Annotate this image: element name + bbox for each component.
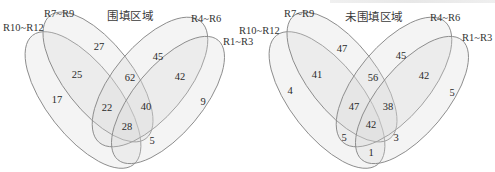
region-value: 42	[419, 71, 430, 82]
region-value: 3	[393, 133, 398, 144]
region-value: 22	[102, 103, 113, 114]
set-label-r4-r6: R4~R6	[191, 14, 221, 25]
venn-diagram-reclaimed: R10~R12 R7~R9 围填区域 R4~R6 R1~R3 27 25 17 …	[0, 0, 248, 172]
region-value: 56	[368, 73, 379, 84]
region-value: 5	[341, 133, 346, 144]
region-value: 17	[52, 95, 63, 106]
region-value: 5	[149, 136, 154, 147]
region-value: 42	[175, 72, 186, 83]
region-value: 27	[94, 42, 105, 53]
set-label-r4-r6: R4~R6	[430, 13, 460, 24]
region-value: 38	[383, 102, 394, 113]
region-value: 47	[349, 102, 360, 113]
region-value: 25	[72, 70, 83, 81]
set-label-r7-r9: R7~R9	[284, 9, 314, 20]
region-value: 42	[366, 120, 377, 131]
region-value: 5	[449, 88, 454, 99]
region-value: 45	[396, 51, 407, 62]
region-value: 62	[125, 73, 136, 84]
region-value: 45	[153, 52, 164, 63]
region-value: 1	[368, 148, 373, 159]
region-value: 47	[337, 44, 348, 55]
region-value: 40	[141, 102, 152, 113]
set-label-r10-r12: R10~R12	[239, 26, 280, 37]
venn-title: 未围填区域	[345, 12, 403, 24]
venn-diagram-unreclaimed: R10~R12 R7~R9 未围填区域 R4~R6 R1~R3 47 41 4 …	[247, 0, 495, 172]
region-value: 28	[122, 122, 133, 133]
venn-title: 围填区域	[107, 11, 153, 23]
set-label-r10-r12: R10~R12	[3, 23, 44, 34]
region-value: 41	[312, 70, 323, 81]
set-label-r1-r3: R1~R3	[462, 33, 492, 44]
region-value: 4	[287, 86, 292, 97]
region-value: 9	[200, 97, 205, 108]
set-label-r7-r9: R7~R9	[44, 9, 74, 20]
